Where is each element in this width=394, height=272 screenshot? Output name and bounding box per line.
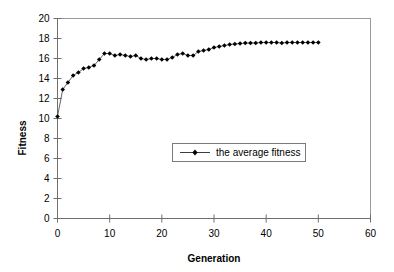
y-tick-label: 18 [38,33,50,44]
y-tick-label: 4 [44,173,50,184]
x-tick-label: 50 [313,228,325,239]
legend: the average fitness [173,144,306,162]
y-tick-label: 2 [44,193,50,204]
y-tick-label: 10 [38,113,50,124]
y-tick-label: 20 [38,13,50,24]
x-axis-title: Generation [188,253,241,264]
y-tick-label: 16 [38,53,50,64]
y-tick-label: 14 [38,73,50,84]
x-tick-label: 60 [365,228,377,239]
chart-canvas: 02468101214161820 0102030405060 Fitness … [0,0,394,272]
x-tick-label: 10 [104,228,116,239]
fitness-vs-generation-chart: 02468101214161820 0102030405060 Fitness … [0,0,394,272]
y-axis-title: Fitness [17,120,28,155]
x-tick-label: 20 [156,228,168,239]
x-tick-label: 40 [261,228,273,239]
y-tick-label: 8 [44,133,50,144]
y-tick-label: 0 [44,213,50,224]
y-tick-label: 12 [38,93,50,104]
x-tick-label: 30 [208,228,220,239]
legend-label: the average fitness [216,147,301,158]
x-tick-label: 0 [55,228,61,239]
y-tick-label: 6 [44,153,50,164]
